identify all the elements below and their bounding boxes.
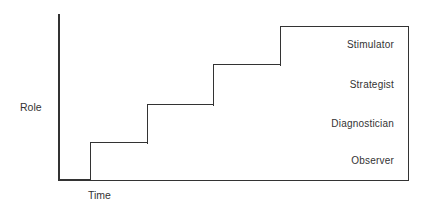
step-label-stimulator: Stimulator bbox=[347, 39, 394, 50]
step-strategist: Strategist bbox=[213, 64, 409, 106]
step-diagnostician: Diagnostician bbox=[147, 104, 409, 144]
y-axis-line bbox=[58, 14, 60, 180]
x-axis-label: Time bbox=[88, 189, 111, 201]
step-label-diagnostician: Diagnostician bbox=[331, 118, 394, 129]
step-label-observer: Observer bbox=[351, 155, 394, 166]
step-observer: Observer bbox=[90, 142, 409, 181]
y-axis-label: Role bbox=[20, 101, 42, 113]
step-stimulator: Stimulator bbox=[280, 26, 409, 66]
step-label-strategist: Strategist bbox=[350, 79, 394, 90]
